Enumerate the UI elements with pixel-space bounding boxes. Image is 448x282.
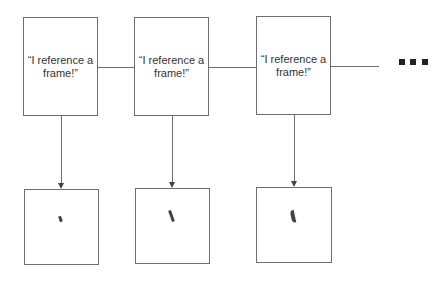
result-box-2 <box>135 188 210 264</box>
stroke-mark-2 <box>168 210 175 222</box>
arrow-line-3 <box>294 115 295 182</box>
connector-1-2 <box>98 67 134 68</box>
frame-box-2: “I reference a frame!” <box>134 17 209 116</box>
frame-label-3: “I reference a frame!” <box>259 53 329 79</box>
arrow-line-1 <box>61 116 62 184</box>
ellipsis-dot-2 <box>410 59 416 65</box>
frame-label-1: “I reference a frame!” <box>26 54 96 80</box>
frame-label-2: “I reference a frame!” <box>137 54 207 80</box>
stroke-mark-1 <box>58 216 63 223</box>
ellipsis-dot-1 <box>399 59 405 65</box>
connector-3-more <box>331 66 379 67</box>
result-box-3 <box>256 187 332 263</box>
result-box-1 <box>24 189 99 265</box>
stroke-mark-3 <box>290 209 297 223</box>
frame-box-1: “I reference a frame!” <box>23 17 98 116</box>
ellipsis-dot-3 <box>422 59 428 65</box>
frame-box-3: “I reference a frame!” <box>256 16 331 115</box>
arrow-line-2 <box>172 116 173 183</box>
connector-2-3 <box>209 67 256 68</box>
